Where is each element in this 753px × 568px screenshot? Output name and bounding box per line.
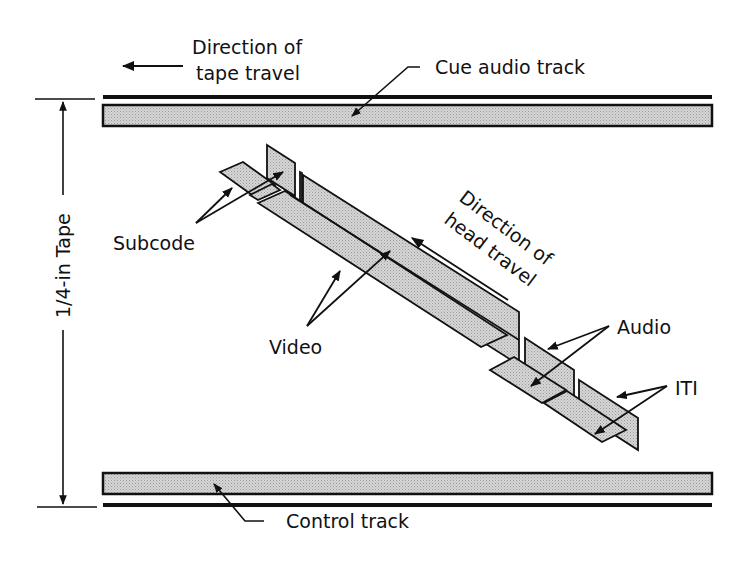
audio-pointer-1-icon (548, 326, 609, 349)
cue-audio-track-label: Cue audio track (435, 56, 585, 78)
control-track (103, 473, 712, 494)
helical-tracks (220, 145, 638, 450)
tape-width-dimension: 1/4-in Tape (35, 99, 97, 507)
video-callout: Video (269, 251, 390, 358)
audio-label: Audio (617, 316, 671, 338)
tape-width-label: 1/4-in Tape (52, 213, 74, 318)
tape-direction-label-line1: Direction of (192, 36, 303, 58)
video-label: Video (269, 336, 322, 358)
diagram-canvas: Direction of tape travel Cue audio track… (0, 0, 753, 568)
iti-label: ITI (675, 377, 698, 399)
video-pointer-1-icon (307, 271, 340, 326)
tape-travel-direction: Direction of tape travel (123, 36, 303, 84)
tape-direction-label-line2: tape travel (196, 62, 300, 84)
control-track-label: Control track (286, 510, 409, 532)
subcode-label: Subcode (113, 232, 195, 254)
cue-audio-track (103, 105, 712, 126)
video-track-lower (258, 191, 507, 347)
